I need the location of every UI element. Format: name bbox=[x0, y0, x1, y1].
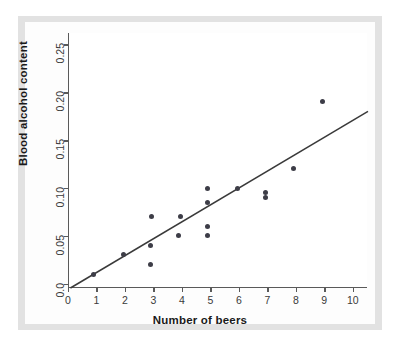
x-axis-tick bbox=[239, 288, 240, 292]
x-axis-tick-label: 10 bbox=[338, 294, 368, 306]
scatter-plot-figure: Blood alcohol content 012345678910 0.00.… bbox=[0, 0, 400, 346]
x-axis-tick bbox=[182, 288, 183, 292]
x-axis-tick bbox=[296, 288, 297, 292]
x-axis-tick-label: 8 bbox=[281, 294, 311, 306]
x-axis-label: Number of beers bbox=[0, 314, 400, 326]
x-axis-tick bbox=[153, 288, 154, 292]
x-axis-tick-label: 6 bbox=[224, 294, 254, 306]
x-axis-tick bbox=[210, 288, 211, 292]
x-axis-tick-label: 7 bbox=[252, 294, 282, 306]
x-axis-tick bbox=[68, 288, 69, 292]
x-axis-tick bbox=[353, 288, 354, 292]
data-point bbox=[91, 272, 96, 277]
x-axis-tick bbox=[96, 288, 97, 292]
plot-frame bbox=[68, 33, 367, 288]
y-axis-tick-label: 0.15 bbox=[54, 139, 66, 179]
data-point bbox=[178, 214, 183, 219]
x-axis-tick-label: 3 bbox=[138, 294, 168, 306]
x-axis-tick bbox=[125, 288, 126, 292]
y-axis-tick-label: 0.10 bbox=[54, 187, 66, 227]
data-point bbox=[205, 233, 210, 238]
data-point bbox=[205, 224, 210, 229]
x-axis-tick-label: 4 bbox=[167, 294, 197, 306]
data-point bbox=[148, 262, 153, 267]
x-axis-tick-label: 9 bbox=[309, 294, 339, 306]
y-axis-tick-label: 0.25 bbox=[54, 43, 66, 83]
data-point bbox=[148, 243, 153, 248]
data-point bbox=[205, 186, 210, 191]
data-point bbox=[235, 186, 240, 191]
x-axis-tick-label: 5 bbox=[195, 294, 225, 306]
plot-area bbox=[69, 33, 367, 287]
y-axis-label: Blood alcohol content bbox=[17, 41, 29, 166]
regression-line-layer bbox=[69, 33, 368, 288]
y-axis-tick-label: 0.20 bbox=[54, 91, 66, 131]
regression-line bbox=[70, 111, 368, 288]
data-point bbox=[205, 200, 210, 205]
x-axis-tick bbox=[267, 288, 268, 292]
y-axis-tick-label: 0.05 bbox=[54, 235, 66, 275]
x-axis-tick-label: 1 bbox=[81, 294, 111, 306]
x-axis-tick-label: 2 bbox=[110, 294, 140, 306]
x-axis-tick bbox=[324, 288, 325, 292]
